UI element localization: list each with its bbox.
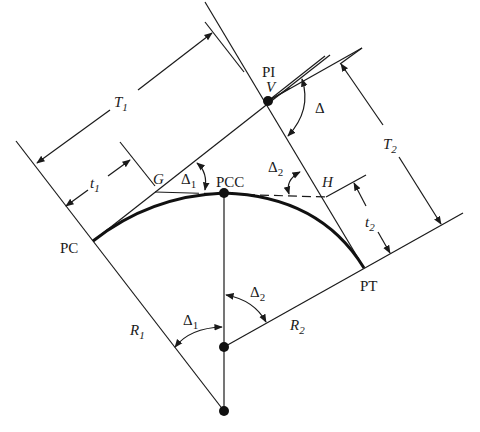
o1-center-point xyxy=(219,406,229,416)
delta-arc xyxy=(288,79,305,136)
pi-point xyxy=(263,96,273,106)
delta1-arc-bottom xyxy=(175,327,222,347)
label-pi: PI xyxy=(262,64,275,80)
back-tangent-extension xyxy=(268,56,325,101)
label-tt2: t2 xyxy=(365,214,375,233)
label-v: V xyxy=(266,79,277,95)
label-g: G xyxy=(153,171,164,187)
tt1-dim-left xyxy=(66,190,88,206)
tt2-dim-bottom xyxy=(378,232,390,253)
label-tt1: t1 xyxy=(90,175,100,194)
label-r2: R2 xyxy=(289,317,305,336)
tt2-dim-top xyxy=(354,183,366,206)
common-tangent-left xyxy=(155,192,190,193)
curve-r1 xyxy=(93,193,224,241)
t1-dim-left xyxy=(37,110,110,163)
label-delta2-bottom: Δ2 xyxy=(250,284,265,303)
r1-extension-line xyxy=(16,141,93,241)
label-pt: PT xyxy=(360,278,378,294)
label-delta2-top: Δ2 xyxy=(268,159,283,178)
label-h: H xyxy=(321,174,334,190)
label-pcc: PCC xyxy=(216,174,244,190)
compound-curve-diagram: PI V PC PCC PT G H Δ Δ1 Δ2 T1 t1 T2 t2 R… xyxy=(0,0,480,432)
label-delta1-top: Δ1 xyxy=(181,171,196,190)
label-pc: PC xyxy=(60,240,78,256)
t2-dim-bottom xyxy=(399,157,441,224)
label-t2: T2 xyxy=(383,136,397,155)
delta2-arc-top xyxy=(288,172,300,194)
t2-dim-top xyxy=(341,64,383,125)
tt1-dim-right xyxy=(108,160,130,176)
label-delta: Δ xyxy=(315,100,325,116)
label-t1: T1 xyxy=(114,94,128,113)
back-tangent-line xyxy=(93,55,330,241)
t2-ext-top xyxy=(340,48,362,64)
radius-r1-line xyxy=(93,241,224,411)
o2-center-point xyxy=(219,342,229,352)
label-delta1-bottom: Δ1 xyxy=(183,312,198,331)
t1-dim-right xyxy=(138,33,212,90)
label-r1: R1 xyxy=(129,322,145,341)
delta1-arc-top xyxy=(197,163,206,190)
curve-r2 xyxy=(224,193,364,268)
t1-ext-top xyxy=(205,22,244,72)
